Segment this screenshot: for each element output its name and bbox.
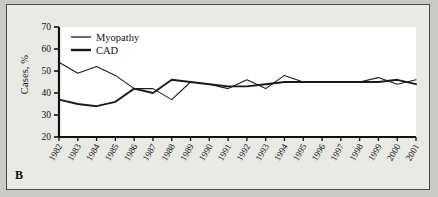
x-tick-label: 1993: [253, 142, 271, 163]
x-tick-label: 1983: [65, 142, 83, 163]
x-tick-label: 1995: [291, 142, 309, 163]
x-tick-label: 1989: [178, 142, 196, 163]
y-tick-label: 20: [42, 132, 52, 142]
x-tick-label: 1982: [47, 142, 65, 163]
x-tick-label: 1984: [84, 142, 102, 163]
y-tick-label: 70: [42, 22, 52, 32]
line-chart: 203040506070 198219831984198519861987198…: [7, 5, 431, 191]
x-tick-label: 1985: [103, 142, 121, 163]
x-tick-label: 1999: [366, 142, 384, 163]
x-tick-label: 2001: [404, 142, 422, 163]
x-tick-label: 1997: [328, 142, 346, 163]
legend-label-cad: CAD: [96, 45, 119, 56]
legend-label-myopathy: Myopathy: [96, 32, 140, 43]
x-tick-label: 1987: [141, 142, 159, 163]
y-tick-label: 50: [42, 66, 52, 76]
y-axis-ticks: 203040506070: [42, 22, 60, 142]
x-tick-label: 1994: [272, 142, 290, 163]
x-tick-label: 1991: [216, 142, 234, 163]
y-tick-label: 30: [42, 110, 52, 120]
y-tick-label: 60: [42, 44, 52, 54]
x-axis-ticks: 1982198319841985198619871988198919901991…: [47, 137, 422, 163]
x-tick-label: 1992: [234, 142, 252, 163]
x-tick-label: 1990: [197, 142, 215, 163]
chart-canvas: 203040506070 198219831984198519861987198…: [7, 5, 429, 189]
x-tick-label: 1988: [159, 142, 177, 163]
x-tick-label: 1998: [347, 142, 365, 163]
figure-panel: Cases, % B 203040506070 1982198319841985…: [6, 4, 430, 190]
x-tick-label: 1996: [310, 142, 328, 163]
x-tick-label: 2000: [385, 142, 403, 163]
y-tick-label: 40: [42, 88, 52, 98]
x-tick-label: 1986: [122, 142, 140, 163]
